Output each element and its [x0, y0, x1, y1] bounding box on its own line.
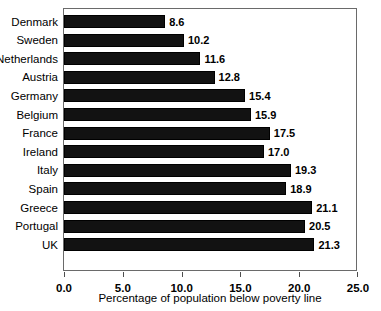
bar	[64, 108, 251, 121]
bar-value-label: 17.0	[268, 144, 289, 160]
bar	[64, 15, 165, 28]
bar-rows: Denmark8.6Sweden10.2Netherlands11.6Austr…	[64, 9, 356, 270]
category-label: Germany	[0, 87, 58, 106]
x-tick	[357, 272, 358, 277]
x-axis-title: Percentage of population below poverty l…	[63, 291, 357, 306]
bar-row: Portugal20.5	[64, 217, 356, 236]
bar	[64, 89, 245, 102]
bar-row: Belgium15.9	[64, 106, 356, 125]
category-label: Italy	[0, 161, 58, 180]
bar-row: Sweden10.2	[64, 31, 356, 50]
category-label: UK	[0, 236, 58, 255]
bar-value-label: 15.9	[255, 107, 276, 123]
bar-row: Ireland17.0	[64, 143, 356, 162]
bar-value-label: 21.3	[318, 237, 339, 253]
bar	[64, 220, 305, 233]
bar-value-label: 12.8	[219, 69, 240, 85]
bar-row: Spain18.9	[64, 180, 356, 199]
bar	[64, 34, 184, 47]
category-label: Sweden	[0, 31, 58, 50]
bar-value-label: 10.2	[188, 32, 209, 48]
x-tick	[64, 272, 65, 277]
bar-row: Denmark8.6	[64, 13, 356, 32]
category-label: Belgium	[0, 106, 58, 125]
category-label: Denmark	[0, 13, 58, 32]
bar-value-label: 21.1	[316, 200, 337, 216]
category-label: Netherlands	[0, 50, 58, 69]
bar-row: Germany15.4	[64, 87, 356, 106]
bar	[64, 201, 312, 214]
bar	[64, 164, 291, 177]
bar-value-label: 11.6	[204, 51, 225, 67]
bar-row: Austria12.8	[64, 68, 356, 87]
bar-value-label: 17.5	[274, 125, 295, 141]
bar-value-label: 20.5	[309, 218, 330, 234]
category-label: Ireland	[0, 143, 58, 162]
bar	[64, 182, 286, 195]
bar	[64, 52, 200, 65]
bar-row: Greece21.1	[64, 199, 356, 218]
bar	[64, 71, 215, 84]
bar	[64, 238, 314, 251]
bar-row: Netherlands11.6	[64, 50, 356, 69]
category-label: France	[0, 124, 58, 143]
bar-chart: Denmark8.6Sweden10.2Netherlands11.6Austr…	[0, 0, 381, 311]
bar	[64, 145, 264, 158]
x-tick	[299, 272, 300, 277]
bar-value-label: 18.9	[290, 181, 311, 197]
bar	[64, 127, 270, 140]
category-label: Portugal	[0, 217, 58, 236]
category-label: Spain	[0, 180, 58, 199]
category-label: Austria	[0, 68, 58, 87]
bar-row: France17.5	[64, 124, 356, 143]
bar-value-label: 8.6	[169, 14, 184, 30]
x-tick	[240, 272, 241, 277]
bar-row: UK21.3	[64, 236, 356, 255]
bar-row: Italy19.3	[64, 161, 356, 180]
x-tick	[182, 272, 183, 277]
category-label: Greece	[0, 199, 58, 218]
bar-value-label: 15.4	[249, 88, 270, 104]
plot-area: Denmark8.6Sweden10.2Netherlands11.6Austr…	[63, 8, 357, 271]
x-tick	[123, 272, 124, 277]
bar-value-label: 19.3	[295, 162, 316, 178]
